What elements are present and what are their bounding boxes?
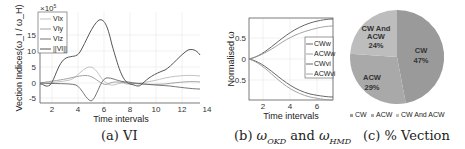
panel-a-chart: -5 0 5 10 15 ×105 2 4 6 8 10 12 14 Time … [14, 3, 212, 124]
panel-a-multiplier: ×105 [40, 3, 57, 13]
pie-pct-cw: 47% [413, 56, 428, 65]
legend-acw-vi: ACWvi [314, 70, 336, 77]
panel-a-xtick: 2 [50, 105, 55, 114]
panel-a-xtick: 4 [76, 105, 81, 114]
panel-a-ytick: 0 [32, 79, 37, 88]
panel-b-xtick: 6 [315, 102, 320, 111]
panel-a-ytick: 15 [27, 31, 36, 40]
panel-b-chart: 0.5 0 -0.5 2 4 6 Time intervals Normalis… [226, 18, 336, 121]
pie-pct-both: 24% [368, 41, 383, 50]
panel-a-xtick: 6 [102, 105, 107, 114]
caption-b: (b) ωOKD and ωHMD [234, 128, 351, 146]
panel-b-xlabel: Time intervals [263, 111, 319, 121]
panel-b-legend: CWw ACWw CWvi ACWvi [305, 37, 336, 78]
panel-a-ytick: 5 [32, 63, 37, 72]
legend-vix: VIx [53, 15, 64, 22]
legend-cw-and-acw: CW And ACW [401, 111, 445, 118]
panel-a-legend: VIx VIy VIz ||VI|| [38, 12, 67, 53]
caption-c: (c) % Vection [363, 128, 450, 143]
panel-a-ylabel: Vection Indices(ω_I / ω_H) [14, 4, 24, 111]
pie-label-acw: ACW [363, 73, 382, 82]
figure: -5 0 5 10 15 ×105 2 4 6 8 10 12 14 Time … [0, 0, 465, 149]
legend-viz: VIz [53, 35, 64, 42]
panel-a-xtick: 12 [178, 105, 187, 114]
pie-label-both-2: ACW [367, 32, 386, 41]
panel-c-legend: CW ACW CW And ACW [350, 111, 445, 118]
pie-label-cw: CW [415, 46, 428, 55]
panel-b-ytick: 0.5 [235, 34, 247, 43]
legend-cw: CW [355, 111, 367, 118]
panel-a-xlabel: Time intervals [93, 114, 149, 124]
legend-acw-w: ACWw [314, 50, 336, 57]
legend-vinorm: ||VI|| [53, 45, 67, 53]
panel-b-ytick: 0 [242, 55, 247, 64]
caption-a: (a) VI [101, 128, 138, 143]
legend-acw: ACW [376, 111, 393, 118]
legend-cw-vi: CWvi [314, 60, 331, 67]
panel-a-xtick: 10 [152, 105, 161, 114]
panel-a-xtick: 8 [128, 105, 133, 114]
pie-pct-acw: 29% [364, 83, 379, 92]
panel-c-pie: CW 47% ACW 29% CW And ACW 24% CW ACW CW … [350, 10, 445, 118]
panel-b-ylabel: Normalised ω [226, 31, 236, 86]
legend-viy: VIy [53, 25, 64, 33]
panel-b-xtick: 4 [288, 102, 293, 111]
legend-cw-w: CWw [314, 40, 332, 47]
panel-a-ytick: -5 [29, 94, 37, 103]
panel-a-xtick: 14 [203, 105, 212, 114]
panel-a-ytick: 10 [27, 47, 36, 56]
panel-b-xtick: 2 [261, 102, 266, 111]
